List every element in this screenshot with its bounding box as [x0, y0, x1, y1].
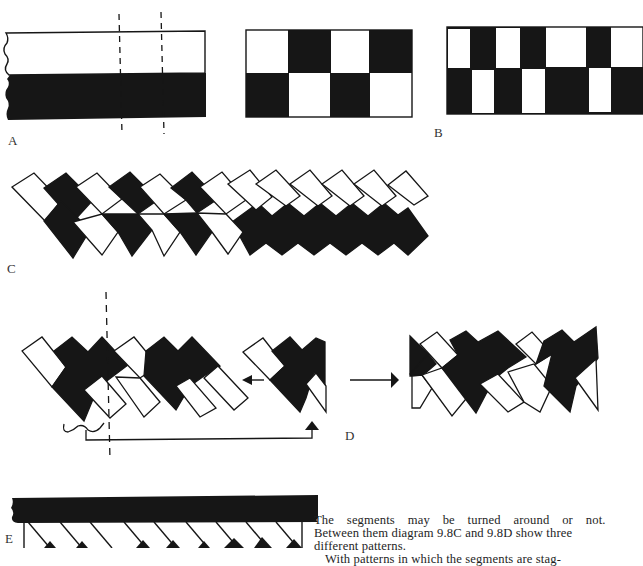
figure-b-checker-regular — [246, 30, 412, 117]
label-e: E — [5, 531, 13, 547]
right-arrow-icon — [391, 372, 399, 388]
figure-d-result — [410, 327, 598, 416]
up-arrow-icon — [305, 421, 319, 430]
figure-d-original — [22, 337, 326, 421]
text-line-4: With patterns in which the segments are … — [314, 553, 643, 566]
label-b: B — [434, 125, 443, 141]
label-d: D — [345, 428, 354, 444]
figure-b-checker-irregular — [447, 27, 643, 114]
left-arrow-icon — [242, 375, 252, 385]
label-a: A — [8, 133, 17, 149]
figure-e-band — [11, 495, 318, 548]
return-path-line — [86, 428, 312, 440]
body-paragraph: The segments may be turned around or not… — [314, 514, 643, 566]
brace-mark — [64, 423, 105, 432]
figure-a-band — [4, 12, 206, 134]
label-c: C — [7, 261, 16, 277]
figure-c-chevron-band — [12, 170, 428, 258]
